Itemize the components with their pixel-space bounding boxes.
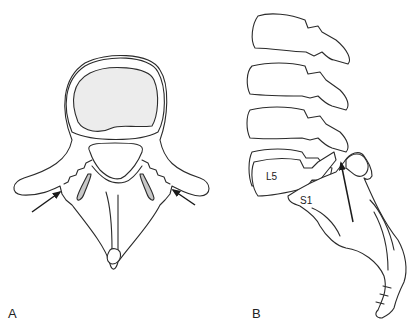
- vertebra-l3: [247, 107, 348, 152]
- vertebra-l2: [247, 63, 348, 110]
- vertebra-l1: [252, 14, 349, 64]
- panel-a-axial-vertebra: A: [8, 55, 209, 321]
- left-pars-arrow: [32, 192, 60, 212]
- spinous-tip: [107, 249, 120, 264]
- label-l5: L5: [266, 171, 278, 182]
- label-s1: S1: [300, 195, 313, 206]
- spondylolysis-figure: A L5 S1 B: [0, 0, 420, 326]
- panel-b-lateral-spine: L5 S1 B: [247, 14, 406, 321]
- disc-nucleus: [74, 68, 158, 132]
- panel-a-label: A: [8, 306, 17, 321]
- panel-b-label: B: [252, 306, 261, 321]
